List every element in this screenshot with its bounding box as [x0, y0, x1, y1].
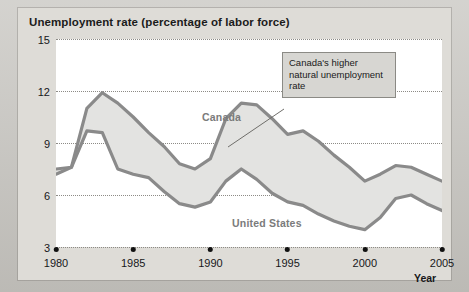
x-tick-1990: 1990 — [198, 247, 222, 269]
x-tick-dot — [208, 247, 213, 252]
x-tick-dot — [439, 247, 444, 252]
x-tick-label: 1995 — [275, 257, 299, 269]
x-axis: 198019851990199520002005 — [56, 247, 442, 281]
axis-title-x: Year — [414, 272, 436, 284]
x-tick-dot — [53, 247, 58, 252]
y-tick-label: 9 — [44, 138, 50, 150]
x-tick-dot — [131, 247, 136, 252]
x-tick-1985: 1985 — [121, 247, 145, 269]
x-tick-1995: 1995 — [275, 247, 299, 269]
y-tick-label: 6 — [44, 190, 50, 202]
plot-area: 3691215 Canada United States Canada's hi… — [56, 39, 442, 247]
x-tick-label: 1985 — [121, 257, 145, 269]
x-tick-dot — [285, 247, 290, 252]
figure-card: Unemployment rate (percentage of labor f… — [18, 8, 451, 280]
x-tick-2000: 2000 — [353, 247, 377, 269]
x-tick-label: 2000 — [353, 257, 377, 269]
x-tick-2005: 2005 — [430, 247, 454, 269]
y-tick-label: 15 — [38, 34, 50, 46]
x-tick-dot — [362, 247, 367, 252]
x-tick-label: 1990 — [198, 257, 222, 269]
y-tick-label: 12 — [38, 86, 50, 98]
series-label-united-states: United States — [232, 217, 302, 229]
x-tick-label: 2005 — [430, 257, 454, 269]
callout-annotation: Canada's higher natural unemployment rat… — [282, 52, 396, 98]
series-label-canada: Canada — [202, 111, 241, 123]
x-tick-label: 1980 — [44, 257, 68, 269]
chart-title: Unemployment rate (percentage of labor f… — [29, 16, 290, 28]
figure-root: Unemployment rate (percentage of labor f… — [0, 0, 469, 292]
x-tick-1980: 1980 — [44, 247, 68, 269]
